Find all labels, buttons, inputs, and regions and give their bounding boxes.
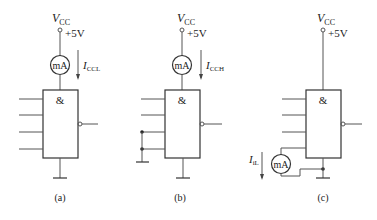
caption-b: (b): [174, 192, 186, 204]
vcc-label-c: VCC: [317, 11, 335, 27]
ammeter-label-b: mA: [175, 60, 191, 71]
gate-symbol-c: &: [319, 94, 328, 106]
ammeter-label-a: mA: [53, 60, 69, 71]
current-label-c: IiL: [248, 153, 259, 167]
current-label-b: ICCH: [205, 59, 224, 73]
caption-a: (a): [54, 192, 65, 204]
caption-c: (c): [317, 192, 328, 204]
panel-c: VCC +5V & mA IiL (c): [248, 11, 362, 204]
output-bubble-b: [200, 122, 204, 126]
panel-a: VCC +5V mA ICCL & (a): [19, 11, 100, 204]
vcc-label-a: VCC: [52, 11, 70, 27]
gate-symbol-b: &: [178, 94, 187, 106]
circuit-diagram: VCC +5V mA ICCL & (a) VCC +5V mA ICCH: [0, 0, 377, 220]
output-bubble-c: [341, 122, 345, 126]
supply-terminal-c: [321, 28, 325, 32]
vcc-label-b: VCC: [177, 11, 195, 27]
panel-b: VCC +5V mA ICCH & (b): [136, 11, 224, 204]
ammeter-label-c: mA: [274, 159, 290, 170]
supply-value-c: +5V: [328, 27, 348, 39]
supply-terminal-b: [180, 28, 184, 32]
supply-terminal-a: [58, 28, 62, 32]
supply-value-a: +5V: [65, 27, 85, 39]
current-label-a: ICCL: [82, 59, 100, 73]
supply-value-b: +5V: [187, 27, 207, 39]
gate-symbol-a: &: [56, 94, 65, 106]
